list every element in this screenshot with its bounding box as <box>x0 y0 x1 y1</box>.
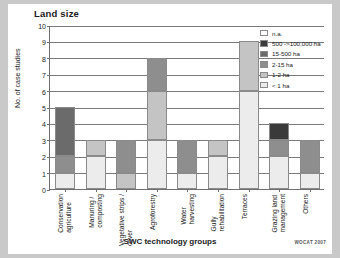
y-tick-mark <box>47 190 50 191</box>
bar-slot <box>203 26 234 189</box>
x-axis-category-label: Others <box>302 194 310 214</box>
legend-item[interactable]: n.a. <box>260 28 330 38</box>
y-tick-label: 10 <box>38 23 46 30</box>
x-tick-mark <box>157 189 158 192</box>
bar-segment[interactable] <box>86 140 106 156</box>
x-tick-mark <box>249 189 250 192</box>
stacked-bar[interactable] <box>177 140 197 189</box>
bar-segment[interactable] <box>177 173 197 189</box>
legend-swatch <box>260 51 268 58</box>
x-axis-category-label: Conservation agriculture <box>57 194 72 233</box>
legend-item[interactable]: 500 ->100,000 ha <box>260 38 330 48</box>
bar-segment[interactable] <box>300 140 320 173</box>
legend-label: 1-2 ha <box>272 71 290 78</box>
x-axis-category-label: Vegetative strips / cover <box>118 194 133 246</box>
legend: n.a.500 ->100,000 ha15-500 ha2-15 ha1-2 … <box>260 28 330 90</box>
stacked-bar[interactable] <box>239 41 259 189</box>
stacked-bar[interactable] <box>208 140 228 189</box>
bar-slot <box>111 26 142 189</box>
bar-segment[interactable] <box>177 140 197 173</box>
x-tick-mark <box>65 189 66 192</box>
stacked-bar[interactable] <box>86 140 106 189</box>
legend-label: < 1 ha <box>272 82 289 89</box>
bar-segment[interactable] <box>116 173 136 189</box>
x-tick-mark <box>96 189 97 192</box>
stacked-bar[interactable] <box>55 107 75 189</box>
y-tick-label: 1 <box>42 170 46 177</box>
bar-segment[interactable] <box>269 123 289 139</box>
legend-label: 2-15 ha <box>272 61 293 68</box>
y-tick-label: 6 <box>42 88 46 95</box>
bar-segment[interactable] <box>208 140 228 156</box>
y-tick-label: 2 <box>42 154 46 161</box>
x-axis-category-label: Manuring / composting <box>88 194 103 228</box>
bar-segment[interactable] <box>239 41 259 90</box>
stacked-bar[interactable] <box>116 140 136 189</box>
legend-label: 15-500 ha <box>272 50 300 57</box>
legend-swatch <box>260 61 268 68</box>
y-axis-label: No. of case studies <box>14 48 21 108</box>
x-axis-category-label: Water harvesting <box>180 194 195 224</box>
legend-swatch <box>260 72 268 79</box>
legend-swatch <box>260 30 268 37</box>
y-tick-label: 3 <box>42 137 46 144</box>
x-tick-mark <box>187 189 188 192</box>
bar-segment[interactable] <box>208 156 228 189</box>
y-tick-label: 5 <box>42 105 46 112</box>
y-tick-label: 9 <box>42 39 46 46</box>
x-tick-mark <box>310 189 311 192</box>
bar-slot <box>50 26 81 189</box>
bar-segment[interactable] <box>300 173 320 189</box>
x-axis-label: SWC technology groups <box>8 237 332 246</box>
bar-segment[interactable] <box>55 156 75 172</box>
bar-segment[interactable] <box>269 140 289 156</box>
legend-item[interactable]: < 1 ha <box>260 80 330 90</box>
stacked-bar[interactable] <box>300 140 320 189</box>
chart-figure: Land size No. of case studies 0123456789… <box>8 4 332 254</box>
y-tick-label: 8 <box>42 55 46 62</box>
legend-swatch <box>260 82 268 89</box>
bar-slot <box>81 26 112 189</box>
bar-segment[interactable] <box>147 91 167 140</box>
legend-label: n.a. <box>272 30 282 37</box>
bar-segment[interactable] <box>116 140 136 173</box>
legend-item[interactable]: 1-2 ha <box>260 70 330 80</box>
x-tick-mark <box>126 189 127 192</box>
legend-swatch <box>260 40 268 47</box>
bar-segment[interactable] <box>239 91 259 189</box>
y-tick-label: 7 <box>42 72 46 79</box>
x-axis-category-label: Gully rehabilitation <box>210 194 225 231</box>
bar-segment[interactable] <box>269 156 289 189</box>
x-axis-category-label: Agroforestry <box>149 194 157 230</box>
legend-label: 500 ->100,000 ha <box>272 40 321 47</box>
stacked-bar[interactable] <box>269 123 289 189</box>
legend-item[interactable]: 15-500 ha <box>260 49 330 59</box>
chart-title: Land size <box>34 8 79 19</box>
x-axis-category-label: Terraces <box>241 194 249 219</box>
x-axis-category-label: Grazing land management <box>271 194 286 233</box>
bar-segment[interactable] <box>55 173 75 189</box>
x-tick-mark <box>279 189 280 192</box>
x-tick-mark <box>218 189 219 192</box>
credit-label: WOCAT 2007 <box>294 240 326 245</box>
y-tick-label: 4 <box>42 121 46 128</box>
bar-segment[interactable] <box>86 156 106 189</box>
stacked-bar[interactable] <box>147 58 167 189</box>
bar-segment[interactable] <box>147 140 167 189</box>
legend-item[interactable]: 2-15 ha <box>260 59 330 69</box>
bar-slot <box>142 26 173 189</box>
bar-segment[interactable] <box>147 58 167 91</box>
bar-segment[interactable] <box>55 107 75 156</box>
bar-slot <box>172 26 203 189</box>
y-tick-label: 0 <box>42 187 46 194</box>
